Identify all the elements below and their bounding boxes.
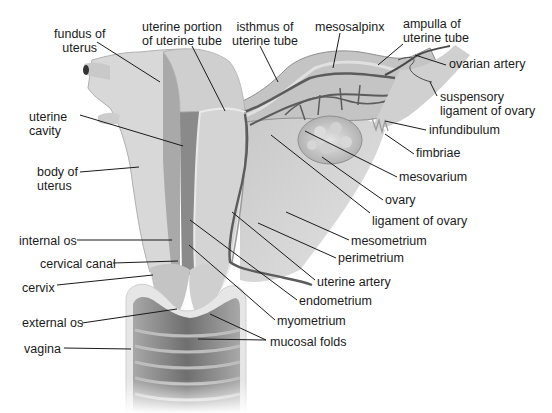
vagina <box>120 284 255 413</box>
label-fundus: fundus ofuterus <box>54 27 105 55</box>
label-external-os: external os <box>22 316 83 330</box>
label-ovarian-artery: ovarian artery <box>449 57 525 71</box>
label-ovary: ovary <box>385 193 416 207</box>
label-suspensory: suspensoryligament of ovary <box>440 90 535 118</box>
label-infundibulum: infundibulum <box>429 123 500 137</box>
label-uterine-portion: uterine portionof uterine tube <box>142 20 222 48</box>
leader-line-fimbriae <box>385 134 414 154</box>
label-myometrium: myometrium <box>277 314 346 328</box>
label-mesosalpinx: mesosalpinx <box>315 20 384 34</box>
label-vagina: vagina <box>24 342 61 356</box>
leader-line-isthmus <box>260 46 278 82</box>
label-body-of-uterus: body ofuterus <box>37 165 78 193</box>
label-endometrium: endometrium <box>299 294 372 308</box>
label-uterine-cavity: uterinecavity <box>29 110 67 138</box>
label-perimetrium: perimetrium <box>338 251 404 265</box>
label-cervical-canal: cervical canal <box>40 257 116 271</box>
label-cervix: cervix <box>22 281 55 295</box>
anatomy-diagram: fundus ofuterusuterine portionof uterine… <box>0 0 552 413</box>
label-mucosal-folds: mucosal folds <box>270 335 346 349</box>
label-mesovarium: mesovarium <box>399 170 467 184</box>
label-ampulla: ampulla ofuterine tube <box>403 17 469 45</box>
label-mesometrium: mesometrium <box>351 234 427 248</box>
ovary <box>298 116 362 164</box>
label-fimbriae: fimbriae <box>416 146 460 160</box>
label-ligament-of-ovary: ligament of ovary <box>372 214 467 228</box>
label-isthmus: isthmus ofuterine tube <box>232 20 298 48</box>
leader-line-cervix <box>57 275 153 285</box>
leader-line-infundibulum <box>385 121 426 130</box>
label-internal-os: internal os <box>19 234 77 248</box>
label-uterine-artery: uterine artery <box>317 275 391 289</box>
